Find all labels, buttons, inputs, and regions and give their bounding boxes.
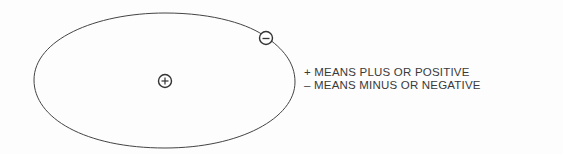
legend-negative: – MEANS MINUS OR NEGATIVE	[304, 79, 481, 92]
legend-positive: + MEANS PLUS OR POSITIVE	[304, 66, 481, 79]
negative-charge-icon	[260, 32, 273, 45]
positive-charge-icon	[159, 75, 172, 88]
legend: + MEANS PLUS OR POSITIVE – MEANS MINUS O…	[304, 66, 481, 92]
